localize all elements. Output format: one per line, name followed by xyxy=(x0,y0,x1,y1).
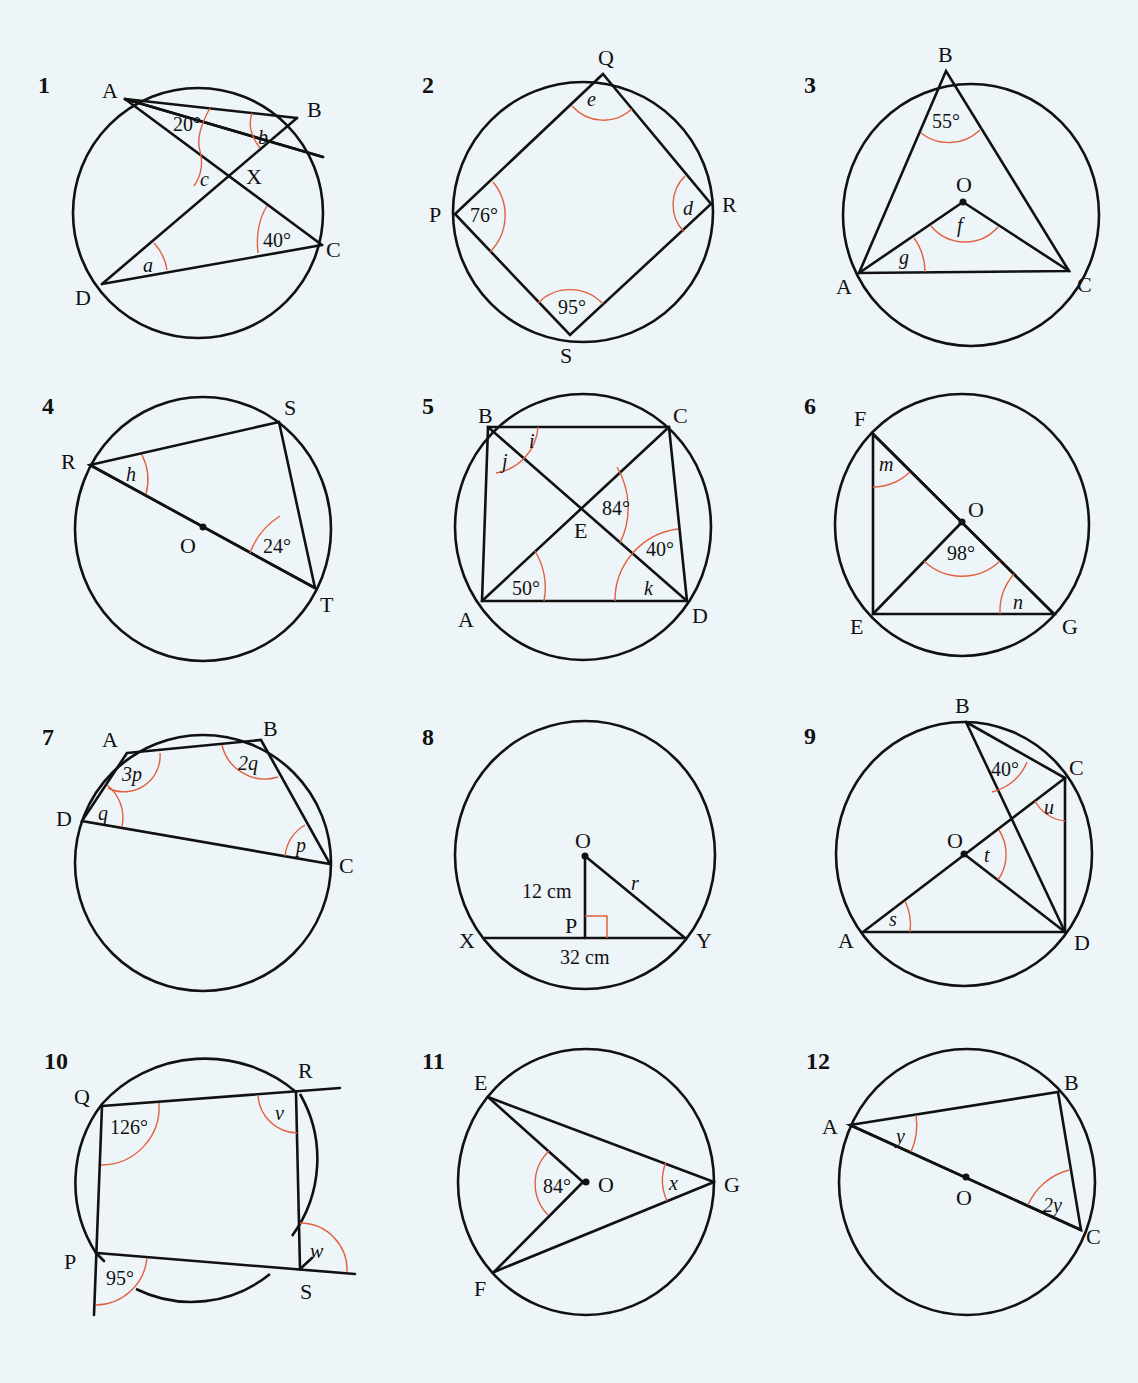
point-F: F xyxy=(474,1276,486,1301)
point-S: S xyxy=(284,395,296,420)
problem-7: 7 3p 2q q p A B D C xyxy=(30,700,400,1030)
point-C: C xyxy=(673,403,688,428)
point-A: A xyxy=(458,607,474,632)
angle-2y: 2y xyxy=(1043,1194,1062,1217)
angle-n: n xyxy=(1013,591,1023,613)
point-P: P xyxy=(64,1249,76,1274)
angle-f: f xyxy=(957,214,965,237)
angle-q: q xyxy=(98,802,108,825)
angle-d: d xyxy=(683,197,694,219)
point-B: B xyxy=(263,716,278,741)
problem-2: 2 e 76° d 95° Q P R S xyxy=(410,40,780,370)
point-B: B xyxy=(478,403,493,428)
angle-w: w xyxy=(310,1240,324,1262)
angle-126: 126° xyxy=(110,1116,148,1138)
point-E: E xyxy=(850,614,863,639)
point-A: A xyxy=(102,727,118,752)
point-Q: Q xyxy=(74,1084,90,1109)
point-E: E xyxy=(474,1070,487,1095)
point-R: R xyxy=(298,1058,313,1083)
angle-j: j xyxy=(499,450,508,473)
diagram-1: 20° b c 40° a A B X C D xyxy=(30,40,400,370)
length-12cm: 12 cm xyxy=(522,880,572,902)
diagram-8: O 12 cm r P X Y 32 cm xyxy=(410,700,780,1000)
problem-11: 11 84° x O E F G xyxy=(410,1040,780,1370)
point-C: C xyxy=(1077,272,1092,297)
angle-55: 55° xyxy=(932,110,960,132)
point-P: P xyxy=(429,202,441,227)
radius-r: r xyxy=(631,872,639,894)
point-O: O xyxy=(956,1185,972,1210)
point-B: B xyxy=(307,97,322,122)
point-O: O xyxy=(968,497,984,522)
diagram-11: 84° x O E F G xyxy=(410,1040,780,1350)
angle-g: g xyxy=(899,246,909,269)
point-O: O xyxy=(598,1172,614,1197)
diagram-12: y 2y O A B C xyxy=(790,1040,1138,1350)
length-32cm: 32 cm xyxy=(560,946,610,968)
diagram-6: m 98° n O F E G xyxy=(790,385,1138,675)
problem-5: 5 i j 84° 40° k 50° E B C A D xyxy=(410,385,780,715)
point-O: O xyxy=(180,533,196,558)
problem-1: 1 20° b c 40° a A B X C D xyxy=(30,40,400,370)
problem-4: 4 h 24° O R S T xyxy=(30,385,400,715)
angle-h: h xyxy=(126,463,136,485)
point-O: O xyxy=(956,172,972,197)
angle-3p: 3p xyxy=(121,763,142,786)
diagram-5: i j 84° 40° k 50° E B C A D xyxy=(410,385,780,675)
angle-95: 95° xyxy=(106,1267,134,1289)
point-F: F xyxy=(854,406,866,431)
point-G: G xyxy=(724,1172,740,1197)
angle-40: 40° xyxy=(991,758,1019,780)
angle-e: e xyxy=(587,88,596,110)
point-R: R xyxy=(722,192,737,217)
point-D: D xyxy=(56,806,72,831)
point-E: E xyxy=(574,518,587,543)
diagram-3: 55° f g O B A C xyxy=(790,40,1138,370)
point-Q: Q xyxy=(598,45,614,70)
point-X: X xyxy=(459,928,475,953)
problem-12: 12 y 2y O A B C xyxy=(790,1040,1138,1370)
angle-b: b xyxy=(258,126,268,148)
angle-c: c xyxy=(200,168,209,190)
point-C: C xyxy=(1086,1224,1101,1249)
problem-3: 3 55° f g O B A C xyxy=(790,40,1138,370)
problem-10: 10 126° v w 95° Q R P S xyxy=(30,1040,400,1370)
point-O: O xyxy=(575,828,591,853)
angle-t: t xyxy=(984,844,990,866)
diagram-2: e 76° d 95° Q P R S xyxy=(410,40,780,380)
point-C: C xyxy=(1069,755,1084,780)
point-P: P xyxy=(565,913,577,938)
angle-84: 84° xyxy=(543,1175,571,1197)
point-A: A xyxy=(102,78,118,103)
point-X: X xyxy=(246,164,262,189)
diagram-10: 126° v w 95° Q R P S xyxy=(30,1040,400,1350)
problem-8: 8 O 12 cm r P X Y 32 cm xyxy=(410,700,780,1030)
angle-98: 98° xyxy=(947,542,975,564)
angle-76: 76° xyxy=(470,204,498,226)
angle-40: 40° xyxy=(646,538,674,560)
angle-a: a xyxy=(143,254,153,276)
point-Y: Y xyxy=(696,928,712,953)
angle-k: k xyxy=(644,577,654,599)
point-A: A xyxy=(822,1114,838,1139)
point-B: B xyxy=(938,42,953,67)
angle-95: 95° xyxy=(558,296,586,318)
point-R: R xyxy=(61,449,76,474)
angle-50: 50° xyxy=(512,577,540,599)
point-C: C xyxy=(326,237,341,262)
angle-84: 84° xyxy=(602,497,630,519)
point-S: S xyxy=(300,1279,312,1304)
point-B: B xyxy=(955,693,970,718)
cut-off-instruction-text xyxy=(0,0,1138,8)
point-D: D xyxy=(692,603,708,628)
angle-24: 24° xyxy=(263,535,291,557)
angle-u: u xyxy=(1044,796,1054,818)
point-B: B xyxy=(1064,1070,1079,1095)
diagram-9: 40° u t s O B C A D xyxy=(790,690,1138,1000)
point-S: S xyxy=(560,343,572,368)
point-G: G xyxy=(1062,614,1078,639)
point-O: O xyxy=(947,828,963,853)
angle-p: p xyxy=(294,834,306,857)
angle-m: m xyxy=(879,453,893,475)
